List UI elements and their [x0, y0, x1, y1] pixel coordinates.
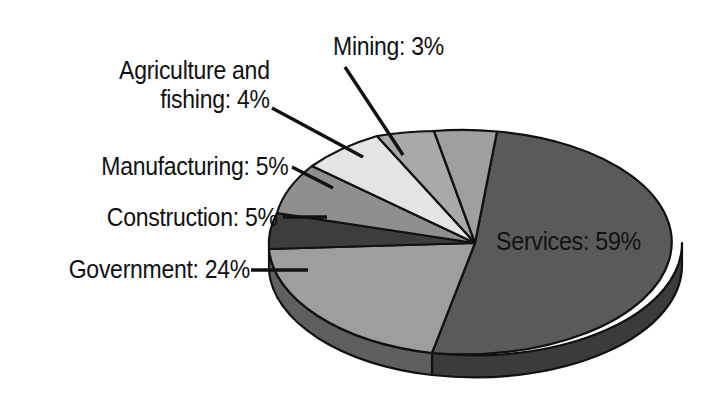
- slice-label-services: Services: 59%: [496, 227, 641, 256]
- slice-label-agriculture-and-fishing: Agriculture and fishing: 4%: [119, 56, 270, 114]
- slice-label-manufacturing: Manufacturing: 5%: [101, 152, 288, 181]
- slice-label-construction: Construction: 5%: [107, 203, 278, 232]
- leader-line-agriculture-and-fishing: [272, 108, 363, 157]
- slice-label-mining: Mining: 3%: [333, 32, 444, 61]
- pie-chart-figure: Agriculture and fishing: 4% Manufacturin…: [0, 0, 725, 405]
- slice-label-government: Government: 24%: [69, 255, 250, 284]
